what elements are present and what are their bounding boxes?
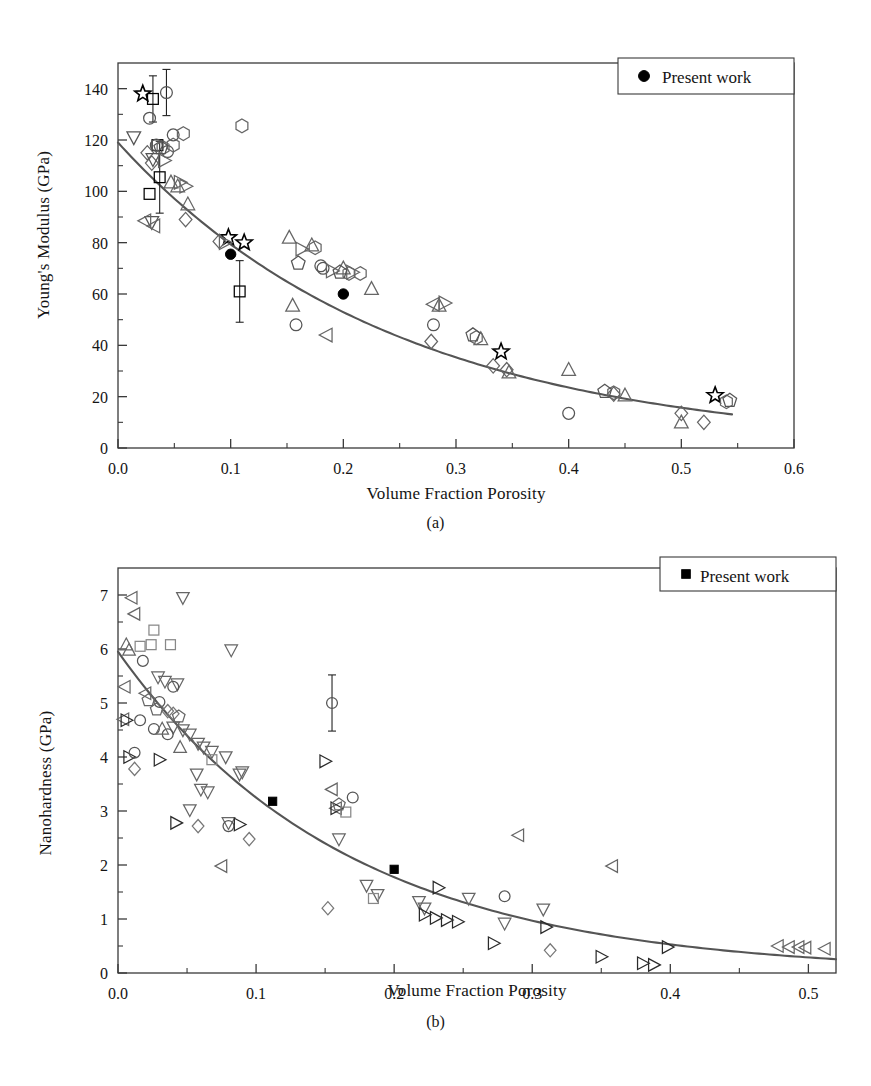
marker-open-diamond (698, 415, 711, 429)
x-tick-label: 0.3 (446, 460, 466, 477)
y-tick-label: 6 (100, 641, 108, 658)
open-triangle-right-marker (441, 914, 453, 927)
star-marker (493, 343, 509, 358)
marker-open-triangle-up (305, 238, 319, 251)
open-triangle-down-marker (537, 904, 550, 916)
marker-open-square (368, 894, 378, 904)
open-square-marker (166, 640, 176, 650)
open-triangle-down-marker (371, 890, 384, 902)
marker-open-triangle-up (286, 298, 300, 311)
marker-open-triangle-up (174, 741, 187, 753)
y-tick-label: 80 (92, 235, 108, 252)
open-triangle-up-marker (305, 238, 319, 251)
x-tick-label: 0.1 (221, 460, 241, 477)
marker-open-triangle-left (128, 608, 140, 621)
marker-open-triangle-left (215, 860, 227, 873)
series-literature-triangle-left (138, 214, 439, 342)
x-tick-label: 0.4 (559, 460, 579, 477)
panel-b: 0.00.10.20.30.40.501234567 Nanohardness … (0, 543, 871, 1086)
marker-open-square (135, 641, 145, 651)
open-triangle-left-marker (118, 681, 130, 694)
marker-open-triangle-up (365, 282, 379, 295)
open-diamond-marker (192, 820, 204, 833)
open-triangle-left-marker (818, 942, 830, 955)
marker-open-diamond (192, 820, 204, 833)
x-axis-title-b: Volume Fraction Porosity (118, 981, 836, 1001)
marker-open-triangle-right (159, 154, 172, 168)
y-tick-label: 1 (100, 911, 108, 928)
marker-open-triangle-right (154, 753, 166, 766)
open-triangle-right-marker (488, 937, 500, 950)
open-triangle-down-marker (171, 679, 184, 691)
marker-open-triangle-down (177, 593, 190, 605)
open-triangle-up-marker (562, 363, 576, 376)
series-present-work (225, 249, 348, 299)
open-triangle-left-marker (125, 591, 137, 604)
y-axis-title-b: Nanohardness (GPa) (36, 613, 56, 953)
open-diamond-marker (129, 762, 141, 775)
x-tick-label: 0.5 (671, 460, 691, 477)
open-circle-marker (137, 655, 148, 666)
series-literature-triangle-right (159, 154, 452, 310)
marker-open-circle (148, 724, 159, 735)
y-tick-label: 3 (100, 803, 108, 820)
open-diamond-marker (179, 212, 192, 226)
marker-open-triangle-left (125, 591, 137, 604)
series-literature-triangle-up (164, 175, 688, 428)
marker-open-circle (428, 319, 440, 331)
marker-open-triangle-right (441, 914, 453, 927)
y-tick-label: 40 (92, 337, 108, 354)
open-triangle-left-marker (771, 940, 783, 953)
open-triangle-down-marker (360, 880, 373, 892)
open-triangle-up-marker (181, 197, 195, 210)
plot-frame (118, 568, 836, 973)
marker-open-triangle-right (453, 915, 465, 928)
marker-open-pentagon (291, 256, 305, 269)
open-triangle-right-marker (154, 753, 166, 766)
marker-open-square (146, 640, 156, 650)
marker-open-triangle-left (319, 328, 332, 342)
open-circle-marker (499, 891, 510, 902)
open-triangle-left-marker (215, 860, 227, 873)
marker-filled-square (390, 865, 398, 873)
marker-open-triangle-left (426, 297, 439, 311)
open-diamond-marker (243, 832, 255, 845)
marker-open-triangle-right (649, 959, 661, 972)
series-literature-hexagon (157, 119, 732, 409)
y-tick-label: 0 (100, 965, 108, 982)
marker-open-triangle-right (296, 242, 309, 256)
y-tick-label: 7 (100, 587, 108, 604)
marker-open-pentagon (172, 710, 185, 722)
series-literature-triangle-up (120, 638, 186, 752)
y-tick-label: 120 (84, 132, 108, 149)
open-circle-marker (290, 319, 302, 331)
marker-open-triangle-down (201, 787, 214, 799)
marker-filled-circle (338, 289, 348, 299)
marker-open-triangle-right (320, 755, 332, 768)
marker-open-triangle-down (371, 890, 384, 902)
marker-open-square (149, 625, 159, 635)
open-triangle-right-marker (171, 817, 183, 830)
star-marker (236, 234, 252, 249)
open-triangle-right-marker (453, 915, 465, 928)
open-diamond-marker (544, 944, 556, 957)
y-tick-label: 0 (100, 440, 108, 457)
open-triangle-down-marker (190, 769, 203, 781)
filled-square-marker (269, 797, 277, 805)
open-triangle-up-marker (282, 230, 296, 243)
x-tick-label: 0.0 (108, 460, 128, 477)
y-tick-label: 4 (100, 749, 108, 766)
marker-open-triangle-left (118, 681, 130, 694)
open-triangle-down-marker (127, 132, 141, 145)
open-triangle-down-marker (219, 752, 232, 764)
open-pentagon-marker (466, 328, 480, 341)
marker-open-hexagon (236, 119, 248, 133)
figure-root: 0.00.10.20.30.40.50.6020406080100120140 … (0, 0, 871, 1086)
marker-open-diamond (179, 212, 192, 226)
marker-open-triangle-left (325, 783, 337, 796)
marker-open-triangle-down (537, 904, 550, 916)
open-triangle-right-marker (596, 951, 608, 964)
legend-label-a: Present work (662, 68, 751, 88)
marker-open-square (166, 640, 176, 650)
marker-open-triangle-up (181, 197, 195, 210)
